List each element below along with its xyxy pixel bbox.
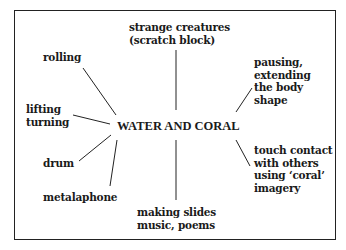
node-rolling: rolling (43, 51, 81, 64)
node-metalaphone: metalaphone (43, 191, 117, 204)
node-strange-creatures: strange creatures (scratch block) (129, 21, 230, 46)
central-topic: WATER AND CORAL (117, 119, 240, 134)
node-pausing: pausing, extending the body shape (254, 56, 311, 106)
node-making-slides: making slides music, poems (137, 206, 216, 231)
connector-drum (79, 135, 111, 161)
connector-rolling (83, 68, 116, 115)
node-lifting: lifting turning (26, 103, 69, 128)
node-drum: drum (43, 157, 74, 170)
connector-metalaphone (110, 140, 117, 186)
connector-lifting (73, 115, 110, 124)
connector-touch (236, 140, 250, 166)
connector-pausing (236, 88, 252, 112)
node-touch: touch contact with others using ‘coral’ … (254, 144, 333, 194)
